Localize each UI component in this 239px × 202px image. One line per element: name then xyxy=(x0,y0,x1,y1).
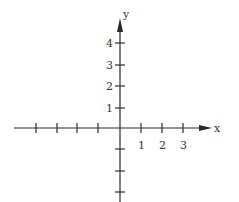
x-tick-label-2: 2 xyxy=(159,139,166,152)
x-tick-label-1: 1 xyxy=(138,139,145,152)
y-tick-label-3: 3 xyxy=(106,59,113,72)
coordinate-plane: x y 1 2 3 1 2 3 4 xyxy=(0,0,239,202)
x-axis-arrow-icon xyxy=(199,125,212,131)
y-tick-label-2: 2 xyxy=(106,80,113,93)
y-tick-label-1: 1 xyxy=(106,102,113,115)
x-axis-label: x xyxy=(214,122,221,135)
x-tick-label-3: 3 xyxy=(180,139,187,152)
y-axis-label: y xyxy=(122,8,130,21)
y-tick-label-4: 4 xyxy=(106,37,113,50)
